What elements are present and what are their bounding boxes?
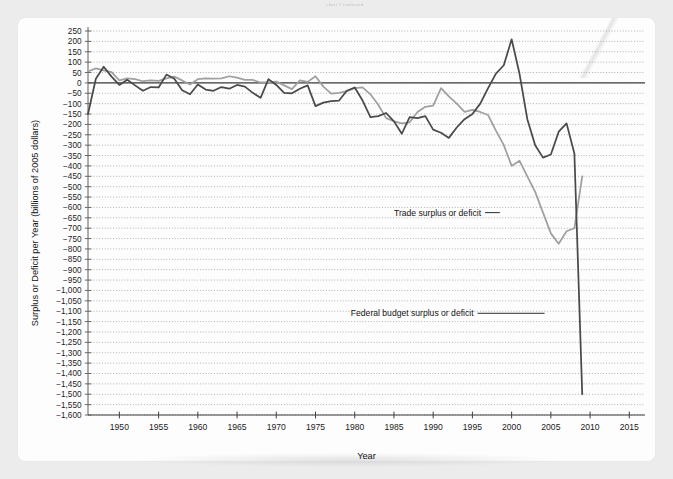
x-tick-label: 1975 xyxy=(306,422,325,432)
y-tick-label: −1,450 xyxy=(56,380,82,389)
y-axis-title: Surplus or Deficit per Year (billions of… xyxy=(30,120,40,326)
y-tick-label: −200 xyxy=(63,120,82,129)
y-tick-label: −550 xyxy=(63,193,82,202)
y-tick-label: −1,600 xyxy=(56,411,82,420)
legend-group: Trade surplus or deficitFederal budget s… xyxy=(351,208,545,319)
y-tick-label: −1,300 xyxy=(56,349,82,358)
y-tick-group: 250200150100500−50−100−150−200−250−300−3… xyxy=(56,27,91,420)
y-tick-label: −300 xyxy=(63,141,82,150)
y-tick-label: −350 xyxy=(63,152,82,161)
x-tick-label: 1980 xyxy=(345,422,364,432)
y-tick-label: −250 xyxy=(63,131,82,140)
y-tick-label: 50 xyxy=(72,69,82,78)
y-tick-label: −750 xyxy=(63,235,82,244)
y-tick-label: −950 xyxy=(63,276,82,285)
x-tick-label: 2010 xyxy=(581,422,600,432)
y-tick-label: −100 xyxy=(63,100,82,109)
x-tick-label: 1995 xyxy=(463,422,482,432)
y-tick-label: −150 xyxy=(63,110,82,119)
x-tick-label: 1965 xyxy=(227,422,246,432)
y-tick-label: −400 xyxy=(63,162,82,171)
y-tick-label: −1,550 xyxy=(56,401,82,410)
y-tick-label: −600 xyxy=(63,203,82,212)
y-tick-label: −850 xyxy=(63,255,82,264)
x-tick-label: 1955 xyxy=(149,422,168,432)
y-tick-label: −700 xyxy=(63,224,82,233)
y-tick-label: −500 xyxy=(63,183,82,192)
x-tick-label: 1985 xyxy=(384,422,403,432)
x-tick-label: 1990 xyxy=(424,422,443,432)
y-tick-label: −450 xyxy=(63,172,82,181)
y-tick-label: −1,150 xyxy=(56,318,82,327)
y-tick-label: −1,400 xyxy=(56,369,82,378)
gridlines-group xyxy=(88,31,645,415)
y-tick-label: −900 xyxy=(63,266,82,275)
y-tick-label: −1,350 xyxy=(56,359,82,368)
y-tick-label: −50 xyxy=(68,89,82,98)
x-tick-label: 1950 xyxy=(110,422,129,432)
y-tick-label: 250 xyxy=(68,27,82,36)
y-tick-label: −1,500 xyxy=(56,390,82,399)
figure-page: chart 7 continued 250200150100500−50−100… xyxy=(0,0,673,479)
x-tick-label: 1970 xyxy=(267,422,286,432)
chart-plot-area: 250200150100500−50−100−150−200−250−300−3… xyxy=(0,0,673,479)
x-tick-label: 2005 xyxy=(541,422,560,432)
data-series-group xyxy=(88,39,582,394)
y-tick-label: 100 xyxy=(68,58,82,67)
y-tick-label: −1,200 xyxy=(56,328,82,337)
y-tick-label: −1,000 xyxy=(56,286,82,295)
y-tick-label: −800 xyxy=(63,245,82,254)
y-tick-label: 200 xyxy=(68,37,82,46)
y-tick-label: −1,100 xyxy=(56,307,82,316)
y-tick-label: −1,250 xyxy=(56,338,82,347)
x-axis-title: Year xyxy=(357,451,376,461)
axis-lines-group xyxy=(88,27,645,415)
x-tick-label: 1960 xyxy=(188,422,207,432)
y-tick-label: 150 xyxy=(68,48,82,57)
x-tick-label: 2000 xyxy=(502,422,521,432)
series-legend-label-2: Federal budget surplus or deficit xyxy=(351,308,474,318)
y-tick-label: −650 xyxy=(63,214,82,223)
series-legend-label-1: Trade surplus or deficit xyxy=(394,208,482,218)
y-tick-label: −1,050 xyxy=(56,297,82,306)
chart-figure: 250200150100500−50−100−150−200−250−300−3… xyxy=(0,0,673,479)
x-tick-label: 2015 xyxy=(620,422,639,432)
y-tick-label: 0 xyxy=(77,79,82,88)
